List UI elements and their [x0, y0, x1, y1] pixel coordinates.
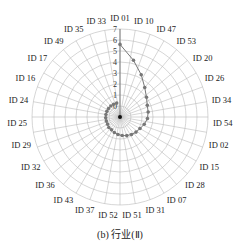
category-label: ID 43	[54, 195, 74, 205]
data-point	[138, 127, 142, 131]
category-label: ID 29	[12, 140, 32, 150]
category-label: ID 10	[134, 16, 154, 26]
data-point	[112, 102, 116, 106]
data-point	[139, 73, 143, 77]
category-label: ID 16	[16, 73, 36, 83]
data-point	[143, 86, 147, 90]
data-point	[125, 134, 129, 138]
data-point	[113, 131, 117, 135]
radial-tick-label: 6	[113, 36, 117, 45]
data-point	[120, 134, 124, 138]
category-label: ID 34	[212, 95, 232, 105]
category-label: ID 53	[176, 36, 196, 46]
data-point	[134, 130, 138, 134]
data-point	[116, 133, 120, 137]
category-label: ID 35	[64, 24, 84, 34]
data-point	[115, 101, 119, 105]
data-point	[118, 43, 122, 47]
data-point	[146, 110, 150, 114]
category-label: ID 37	[75, 205, 95, 215]
data-point	[110, 128, 114, 132]
category-label: ID 15	[199, 162, 219, 172]
category-label: ID 17	[28, 53, 48, 63]
center-marker	[118, 115, 122, 119]
category-label: ID 28	[185, 180, 205, 190]
data-point	[132, 58, 136, 62]
category-label: ID 02	[209, 140, 229, 150]
radial-tick-label: 3	[113, 69, 117, 78]
radial-tick-label: 4	[113, 58, 117, 67]
category-label: ID 51	[122, 210, 142, 220]
category-label: ID 01	[110, 13, 130, 23]
data-point	[104, 116, 108, 120]
radial-tick-label: 7	[113, 25, 117, 34]
chart-caption: (b) 行业(Ⅱ)	[0, 226, 240, 241]
category-label: ID 52	[98, 210, 118, 220]
data-point	[130, 133, 134, 137]
data-point	[107, 126, 111, 130]
data-point	[104, 113, 108, 117]
data-point	[145, 95, 149, 99]
data-point	[146, 117, 150, 121]
category-label: ID 26	[205, 73, 225, 83]
category-label: ID 24	[9, 95, 29, 105]
category-label: ID 31	[145, 205, 165, 215]
radar-chart: 01234567ID 01ID 10ID 47ID 53ID 20ID 26ID…	[0, 0, 240, 247]
radial-tick-label: 5	[113, 47, 117, 56]
radial-tick-label: 1	[113, 91, 117, 100]
category-label: ID 54	[213, 118, 233, 128]
category-label: ID 07	[167, 195, 187, 205]
data-point	[142, 122, 146, 126]
category-label: ID 25	[7, 118, 27, 128]
category-label: ID 49	[44, 36, 64, 46]
category-label: ID 32	[21, 162, 41, 172]
category-label: ID 36	[35, 180, 55, 190]
category-label: ID 20	[193, 53, 213, 63]
category-label: ID 47	[156, 24, 176, 34]
data-point	[105, 119, 109, 123]
category-label: ID 33	[86, 16, 106, 26]
radial-tick-label: 2	[113, 80, 117, 89]
data-point	[145, 103, 149, 107]
